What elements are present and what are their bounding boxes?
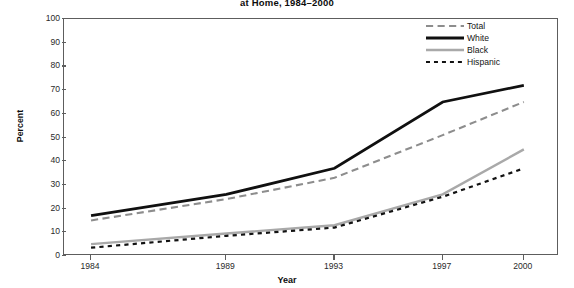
x-tick-mark xyxy=(333,255,334,260)
legend-item-total: Total xyxy=(425,20,550,32)
legend-item-white: White xyxy=(425,32,550,44)
legend-line-swatch xyxy=(425,21,465,31)
x-axis-label: Year xyxy=(0,275,574,285)
x-tick-label: 2000 xyxy=(493,261,553,271)
legend-line-swatch xyxy=(425,33,465,43)
y-axis-ticks: 0102030405060708090100 xyxy=(10,0,60,288)
legend-item-black: Black xyxy=(425,44,550,56)
legend-label: Total xyxy=(467,21,485,31)
series-line-hispanic xyxy=(91,168,524,247)
x-tick-mark xyxy=(225,255,226,260)
y-tick-label: 50 xyxy=(18,133,60,141)
y-tick-label: 0 xyxy=(18,251,60,259)
x-tick-label: 1993 xyxy=(303,261,363,271)
y-tick-label: 30 xyxy=(18,180,60,188)
y-tick-label: 90 xyxy=(18,38,60,46)
x-tick-mark xyxy=(90,255,91,260)
x-tick-label: 1984 xyxy=(60,261,120,271)
y-tick-label: 70 xyxy=(18,85,60,93)
chart-figure: at Home, 1984–2000 Percent 0102030405060… xyxy=(0,0,574,288)
legend-label: Hispanic xyxy=(467,57,500,67)
chart-title: at Home, 1984–2000 xyxy=(0,0,574,10)
series-line-total xyxy=(91,102,524,221)
y-tick-label: 40 xyxy=(18,156,60,164)
series-line-black xyxy=(91,149,524,244)
legend-label: Black xyxy=(467,45,488,55)
legend-line-swatch xyxy=(425,45,465,55)
legend-line-swatch xyxy=(425,57,465,67)
x-tick-mark xyxy=(442,255,443,260)
x-tick-mark xyxy=(523,255,524,260)
x-tick-label: 1989 xyxy=(195,261,255,271)
chart-legend: TotalWhiteBlackHispanic xyxy=(425,20,550,68)
y-tick-label: 60 xyxy=(18,109,60,117)
x-tick-label: 1997 xyxy=(412,261,472,271)
legend-item-hispanic: Hispanic xyxy=(425,56,550,68)
y-tick-label: 80 xyxy=(18,61,60,69)
y-tick-label: 20 xyxy=(18,204,60,212)
y-tick-label: 100 xyxy=(18,14,60,22)
series-line-white xyxy=(91,85,524,215)
y-tick-label: 10 xyxy=(18,227,60,235)
legend-label: White xyxy=(467,33,489,43)
